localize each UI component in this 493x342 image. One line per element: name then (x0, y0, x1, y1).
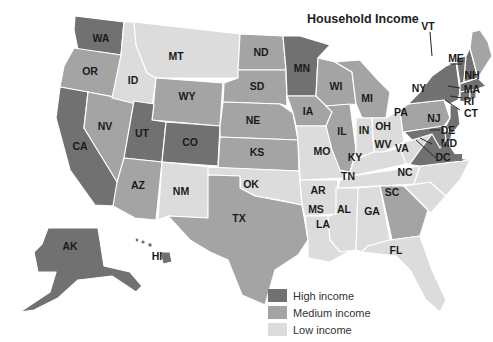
svg-text:NV: NV (98, 120, 113, 132)
svg-text:OK: OK (243, 178, 259, 190)
state-WY[interactable] (152, 78, 223, 126)
svg-text:TX: TX (232, 212, 245, 224)
svg-text:CA: CA (72, 140, 88, 152)
svg-text:AR: AR (310, 184, 326, 196)
svg-text:UT: UT (135, 127, 150, 139)
svg-text:AL: AL (337, 203, 352, 215)
svg-text:WI: WI (330, 80, 343, 92)
svg-text:IL: IL (337, 125, 347, 137)
svg-text:KY: KY (348, 151, 363, 163)
legend-item-medium: Medium income (268, 304, 371, 321)
svg-text:MS: MS (308, 203, 324, 215)
svg-text:IN: IN (359, 124, 370, 136)
svg-text:MO: MO (314, 145, 331, 157)
svg-text:SD: SD (250, 80, 265, 92)
svg-text:AZ: AZ (131, 179, 146, 191)
svg-text:ME: ME (448, 52, 464, 64)
svg-text:MA: MA (464, 83, 481, 95)
svg-text:CO: CO (182, 136, 198, 148)
svg-text:GA: GA (364, 205, 380, 217)
legend-item-high: High income (268, 287, 371, 304)
legend-label-high: High income (293, 290, 354, 302)
svg-text:KS: KS (250, 146, 265, 158)
map-title: Household Income (307, 12, 419, 26)
legend-item-low: Low income (268, 321, 371, 338)
svg-text:WA: WA (93, 32, 110, 44)
us-income-map: WA OR CA NV ID MT WY UT CO AZ NM ND SD N… (0, 0, 493, 342)
svg-text:NJ: NJ (427, 112, 441, 124)
svg-text:FL: FL (390, 244, 403, 256)
svg-text:LA: LA (316, 218, 330, 230)
svg-text:WV: WV (375, 138, 392, 150)
state-FL[interactable] (362, 236, 446, 312)
svg-text:AK: AK (62, 240, 78, 252)
svg-text:MI: MI (361, 92, 373, 104)
svg-text:WY: WY (179, 90, 196, 102)
svg-text:ID: ID (128, 74, 139, 86)
state-AK[interactable] (20, 228, 142, 312)
svg-text:DC: DC (435, 151, 451, 163)
state-DC[interactable] (455, 154, 462, 161)
svg-text:MT: MT (168, 50, 184, 62)
svg-text:DE: DE (441, 124, 456, 136)
svg-text:MD: MD (441, 137, 458, 149)
svg-text:NY: NY (412, 82, 427, 94)
svg-text:NC: NC (397, 166, 413, 178)
svg-text:VT: VT (421, 20, 435, 32)
svg-text:SC: SC (385, 186, 400, 198)
state-MT[interactable] (134, 22, 240, 78)
svg-text:VA: VA (395, 142, 409, 154)
svg-text:OR: OR (82, 65, 98, 77)
svg-text:NH: NH (464, 69, 479, 81)
svg-text:HI: HI (152, 250, 163, 262)
legend-label-medium: Medium income (293, 307, 371, 319)
legend: High income Medium income Low income (268, 287, 371, 338)
legend-swatch-low (268, 323, 287, 336)
svg-text:TN: TN (341, 170, 355, 182)
svg-text:MN: MN (294, 62, 310, 74)
svg-text:NE: NE (246, 114, 261, 126)
svg-text:CT: CT (464, 107, 479, 119)
legend-label-low: Low income (293, 324, 352, 336)
svg-text:OH: OH (375, 120, 391, 132)
svg-text:ND: ND (253, 46, 269, 58)
legend-swatch-high (268, 289, 287, 302)
svg-text:PA: PA (394, 106, 408, 118)
svg-text:NM: NM (173, 185, 190, 197)
legend-swatch-medium (268, 306, 287, 319)
svg-text:IA: IA (303, 105, 314, 117)
svg-text:RI: RI (464, 95, 475, 107)
